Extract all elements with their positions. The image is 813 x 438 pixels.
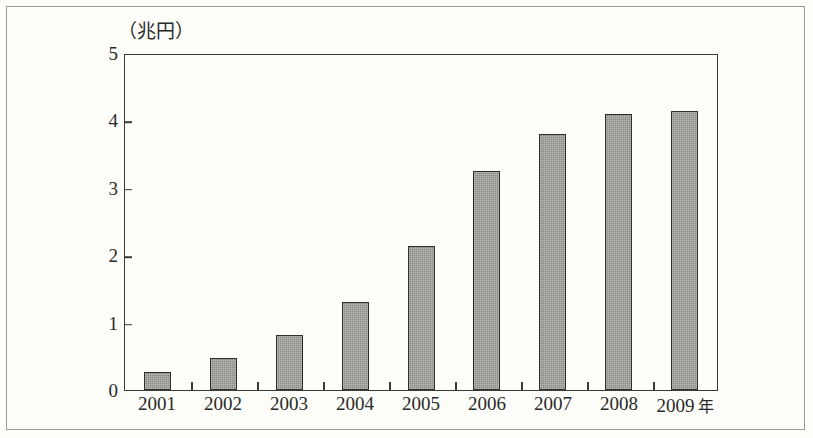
x-axis-tick-label: 2002 — [190, 393, 256, 423]
y-axis-tick-mark — [125, 324, 132, 326]
plot-area — [124, 54, 718, 391]
x-axis-tick-label: 2007 — [520, 393, 586, 423]
bar-slot — [125, 55, 191, 390]
y-axis-unit-label: （兆円） — [118, 16, 194, 43]
y-axis-tick-label: 0 — [92, 380, 118, 402]
y-axis-tick-label: 4 — [92, 110, 118, 132]
x-axis-tick-label: 2005 — [388, 393, 454, 423]
bar-slot — [257, 55, 323, 390]
bar — [473, 171, 500, 390]
bar-slot — [520, 55, 586, 390]
y-axis-tick-label: 3 — [92, 178, 118, 200]
bar — [408, 246, 435, 390]
bar-slot — [388, 55, 454, 390]
y-axis-tick-mark — [125, 122, 132, 124]
x-axis-tick-label: 2006 — [454, 393, 520, 423]
x-axis-tick-label: 2004 — [322, 393, 388, 423]
x-axis-tick-mark — [587, 382, 589, 390]
bar-slot — [191, 55, 257, 390]
plot-inner — [125, 55, 717, 390]
x-axis-tick-label: 2003 — [256, 393, 322, 423]
y-axis-tick-label: 5 — [92, 43, 118, 65]
x-axis-tick-mark — [191, 382, 193, 390]
bar — [671, 111, 698, 390]
x-axis-tick-mark — [323, 382, 325, 390]
bar — [539, 134, 566, 390]
x-axis-tick-label: 2009年 — [652, 393, 718, 423]
x-axis-tick-mark — [389, 382, 391, 390]
x-axis-tick-mark — [455, 382, 457, 390]
y-axis-tick-label: 1 — [92, 313, 118, 335]
x-axis-tick-mark — [653, 382, 655, 390]
bar — [144, 372, 171, 390]
bar — [342, 302, 369, 390]
y-axis-tick-mark — [125, 189, 132, 191]
bar-slot — [454, 55, 520, 390]
y-axis-tick-labels: 012345 — [90, 54, 118, 391]
bar-series — [125, 55, 717, 390]
y-axis-tick-mark — [125, 256, 132, 258]
y-axis-tick-label: 2 — [92, 245, 118, 267]
x-axis-tick-label: 2001 — [124, 393, 190, 423]
x-axis-tick-labels: 200120022003200420052006200720082009年 — [124, 393, 718, 423]
x-axis-tick-mark — [521, 382, 523, 390]
chart-figure: （兆円） 012345 2001200220032004200520062007… — [0, 0, 813, 438]
x-axis-tick-label: 2008 — [586, 393, 652, 423]
bar — [210, 358, 237, 390]
bar — [605, 114, 632, 390]
bar — [276, 335, 303, 390]
bar-slot — [651, 55, 717, 390]
x-axis-unit-suffix: 年 — [698, 398, 714, 415]
bar-slot — [322, 55, 388, 390]
x-axis-tick-mark — [257, 382, 259, 390]
bar-slot — [585, 55, 651, 390]
